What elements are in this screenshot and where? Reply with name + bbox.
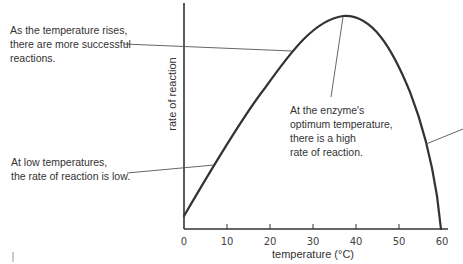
annotation-low: At low temperatures, the rate of reactio… [11,155,130,183]
leader-line-right [426,129,463,144]
x-tick-label: 40 [350,236,363,247]
annotation-line: there is a high [290,131,393,145]
x-tick-labels: 0 10 20 30 40 50 60 [181,236,449,247]
annotation-line: optimum temperature, [290,117,393,131]
annotation-line: the rate of reaction is low. [11,169,130,183]
annotation-line: there are more successful [10,37,131,51]
y-axis-title: rate of reaction [166,57,178,130]
x-axis-title: temperature (°C) [272,248,354,260]
annotation-line: At the enzyme's [290,103,393,117]
x-tick-label: 50 [393,236,406,247]
annotation-line: reactions. [10,51,131,65]
annotation-line: rate of reaction. [290,145,393,159]
x-tick-label: 20 [264,236,277,247]
x-tick-label: 0 [181,236,187,247]
leader-line-optimum [331,17,343,97]
x-tick-label: 60 [436,236,449,247]
leader-line-low [127,165,214,173]
leader-line-rises [124,44,292,51]
annotation-line: As the temperature rises, [10,23,131,37]
annotation-rises: As the temperature rises, there are more… [10,23,131,65]
x-tick-label: 30 [307,236,320,247]
annotation-optimum: At the enzyme's optimum temperature, the… [290,103,393,159]
x-tick-label: 10 [221,236,234,247]
annotation-line: At low temperatures, [11,155,130,169]
